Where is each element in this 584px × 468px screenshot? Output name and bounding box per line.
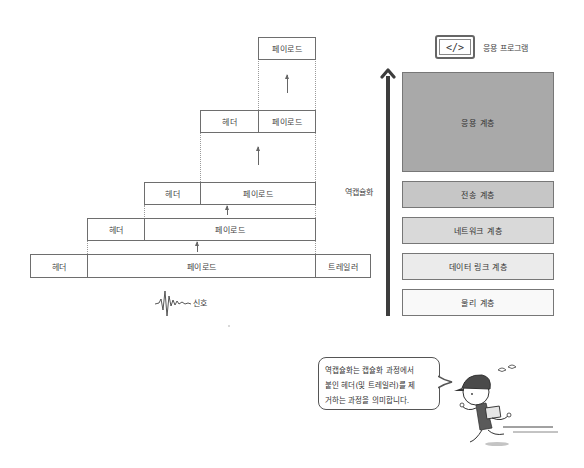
payload-cell: 페이로드 xyxy=(258,110,316,133)
header-cell: 헤더 xyxy=(30,254,88,278)
speech-bubble: 역캡슐화는 캡슐화 과정에서 붙인 헤더(및 트레일러)를 제 거하는 과정을 … xyxy=(318,357,440,410)
app-program-label: 응용 프로그램 xyxy=(483,42,528,53)
payload-cell: 페이로드 xyxy=(258,37,316,60)
running-character-illustration xyxy=(452,360,572,455)
callout-line: 역캡슐화는 캡슐화 과정에서 xyxy=(325,363,433,378)
header-cell: 헤더 xyxy=(87,218,145,241)
up-arrow-icon xyxy=(197,242,198,252)
up-arrow-icon xyxy=(258,147,259,165)
data-link-layer: 데이터 링크 계층 xyxy=(402,253,554,280)
trailer-cell: 트레일러 xyxy=(315,254,371,278)
up-arrow-head-icon xyxy=(380,67,396,79)
application-layer: 응용 계층 xyxy=(402,72,554,172)
up-arrow-icon xyxy=(287,75,288,93)
guide-line xyxy=(144,205,145,217)
signal-label: 신호 xyxy=(193,297,207,308)
layer-label: 네트워크 계층 xyxy=(454,225,502,236)
decapsulation-arrow-shaft xyxy=(386,76,390,316)
guide-line xyxy=(87,241,88,254)
header-cell: 헤더 xyxy=(144,182,201,205)
layer-label: 데이터 링크 계층 xyxy=(449,261,508,272)
callout-line: 붙인 헤더(및 트레일러)를 제 xyxy=(325,378,433,393)
signal-waveform-icon xyxy=(155,288,191,318)
guide-line xyxy=(200,132,201,182)
layer-label: 전송 계층 xyxy=(461,189,494,200)
transport-layer: 전송 계층 xyxy=(402,181,554,208)
guide-line xyxy=(258,59,259,110)
callout-line: 거하는 과정을 의미합니다. xyxy=(325,393,433,408)
stray-dot xyxy=(228,325,230,327)
layer-label: 물리 계층 xyxy=(461,297,494,308)
layer-label: 응용 계층 xyxy=(461,117,494,128)
payload-cell: 페이로드 xyxy=(144,218,316,241)
up-arrow-icon xyxy=(227,206,228,215)
header-cell: 헤더 xyxy=(200,110,259,133)
app-program-icon-frame: </> xyxy=(435,35,475,59)
decapsulation-label: 역캡슐화 xyxy=(345,186,373,197)
payload-cell: 페이로드 xyxy=(200,182,316,205)
physical-layer: 물리 계층 xyxy=(402,289,554,316)
code-icon: </> xyxy=(439,39,471,55)
network-layer: 네트워크 계층 xyxy=(402,217,554,244)
payload-cell: 페이로드 xyxy=(87,254,316,278)
